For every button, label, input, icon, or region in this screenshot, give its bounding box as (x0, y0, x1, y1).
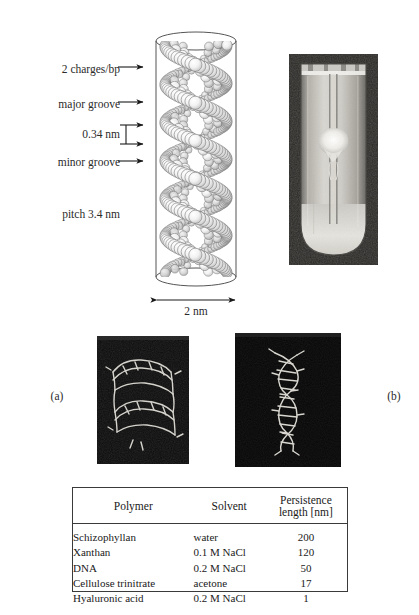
table-row: DNA0.2 M NaCl50 (73, 560, 347, 575)
column-header-persistence-length: Persistence length [nm] (265, 488, 347, 524)
cell-polymer: Schizophyllan (73, 524, 194, 545)
dna-space-filling-model (160, 39, 232, 278)
cell-solvent: 0.1 M NaCl (194, 545, 265, 560)
table-row: Cellulose trinitrateacetone17 (73, 575, 347, 590)
column-header-solvent: Solvent (194, 488, 265, 524)
persistence-length-table: Polymer Solvent Persistence length [nm] … (72, 487, 348, 592)
cell-polymer: DNA (73, 560, 194, 575)
cell-persistence_length: 17 (265, 575, 347, 590)
pitch-label: pitch 3.4 nm (8, 209, 120, 221)
cell-polymer: Xanthan (73, 545, 194, 560)
table-row: Hyaluronic acid0.2 M NaCl1 (73, 590, 347, 605)
cell-solvent: acetone (194, 575, 265, 590)
test-tube-photograph (289, 54, 378, 265)
dna-cylinder-diagram (144, 27, 248, 291)
callout-label-charges: 2 charges/bp (8, 64, 120, 76)
dna-model-panel-b (235, 333, 341, 467)
callout-label-rise: 0.34 nm (8, 129, 120, 141)
cell-persistence_length: 200 (265, 524, 347, 545)
dna-model-panel-a (97, 336, 189, 464)
cell-solvent: water (194, 524, 265, 545)
cell-persistence_length: 1 (265, 590, 347, 605)
cell-persistence_length: 120 (265, 545, 347, 560)
panel-label-b: (b) (383, 391, 405, 403)
column-header-polymer: Polymer (73, 488, 194, 524)
table-row: Schizophyllanwater200 (73, 524, 347, 545)
cropped-text-trace: ·· · (14, 0, 154, 4)
table-row: Xanthan0.1 M NaCl120 (73, 545, 347, 560)
cell-persistence_length: 50 (265, 560, 347, 575)
panel-label-a: (a) (46, 391, 68, 403)
cell-solvent: 0.2 M NaCl (194, 590, 265, 605)
callout-label-major-groove: major groove (8, 99, 120, 111)
dna-cylinder-svg (144, 27, 248, 291)
cell-polymer: Cellulose trinitrate (73, 575, 194, 590)
cell-solvent: 0.2 M NaCl (194, 560, 265, 575)
table-header: Polymer Solvent Persistence length [nm] (73, 488, 347, 524)
table: Polymer Solvent Persistence length [nm] … (73, 488, 347, 606)
table-header-row: Polymer Solvent Persistence length [nm] (73, 488, 347, 524)
table-body: Schizophyllanwater200Xanthan0.1 M NaCl12… (73, 524, 347, 606)
cell-polymer: Hyaluronic acid (73, 590, 194, 605)
callout-label-minor-groove: minor groove (8, 157, 120, 169)
diameter-label: 2 nm (144, 306, 248, 318)
